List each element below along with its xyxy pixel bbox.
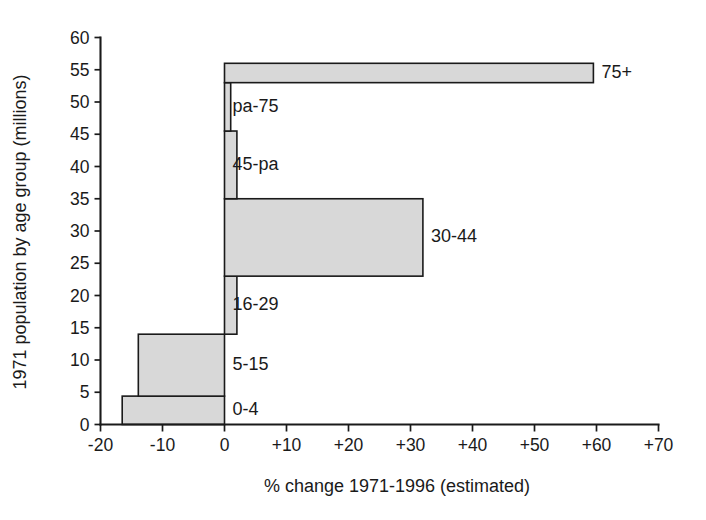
x-axis-title: % change 1971-1996 (estimated) (264, 476, 530, 496)
x-tick-label: +50 (520, 435, 550, 455)
y-axis-title: 1971 population by age group (millions) (10, 74, 30, 389)
bar-label-45-pa: 45-pa (233, 154, 280, 174)
y-tick-label: 30 (70, 221, 90, 241)
x-tick-label: -20 (88, 435, 114, 455)
bar-5-15 (138, 334, 224, 396)
bar-75+ (225, 63, 594, 82)
y-tick-label: 60 (70, 28, 90, 48)
y-tick-label: 20 (70, 286, 90, 306)
bar-pa-75 (225, 83, 231, 131)
y-tick-label: 40 (70, 157, 90, 177)
y-tick-label: 10 (70, 350, 90, 370)
x-tick-label: +60 (582, 435, 612, 455)
bar-30-44 (225, 199, 423, 276)
bar-label-pa-75: pa-75 (233, 96, 279, 116)
y-tick-label: 55 (70, 60, 89, 80)
y-tick-label: 5 (80, 382, 90, 402)
bar-0-4 (122, 396, 224, 424)
y-tick-label: 35 (70, 189, 89, 209)
x-tick-label: +30 (396, 435, 426, 455)
y-tick-label: 45 (70, 124, 89, 144)
y-tick-label: 15 (70, 318, 89, 338)
x-tick-label: -10 (150, 435, 176, 455)
bar-label-5-15: 5-15 (233, 354, 269, 374)
x-tick-label: +40 (458, 435, 488, 455)
bar-label-0-4: 0-4 (233, 399, 259, 419)
chart-container: 0-45-1516-2930-4445-papa-7575+ 051015202… (0, 0, 706, 520)
y-tick-label: 50 (70, 92, 90, 112)
x-tick-label: +10 (272, 435, 302, 455)
bar-chart: 0-45-1516-2930-4445-papa-7575+ 051015202… (0, 0, 706, 520)
bar-label-75+: 75+ (601, 62, 632, 82)
y-tick-label: 0 (80, 415, 90, 435)
y-tick-label: 25 (70, 253, 89, 273)
bar-label-30-44: 30-44 (431, 226, 477, 246)
x-tick-label: +70 (644, 435, 674, 455)
x-tick-label: +20 (334, 435, 364, 455)
bar-label-16-29: 16-29 (233, 294, 279, 314)
x-tick-label: 0 (220, 435, 230, 455)
